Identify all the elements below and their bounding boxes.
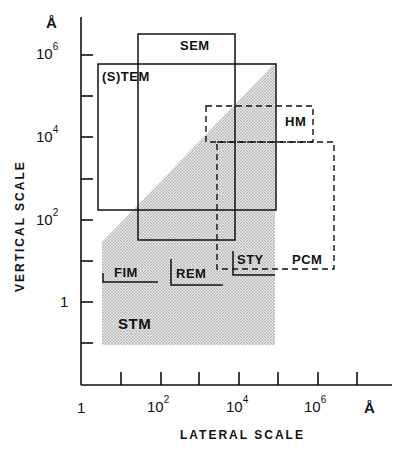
sem-label: SEM [180, 38, 210, 53]
diagram-canvas [0, 0, 405, 452]
y-axis [81, 17, 93, 385]
stm-label: STM [118, 315, 151, 332]
x-tick-1e6: 106 [304, 397, 326, 415]
x-unit: Å [364, 399, 375, 416]
y-tick-1e2-base: 10 [36, 211, 53, 228]
y-tick-1e6-base: 10 [36, 45, 53, 62]
rem-label: REM [176, 266, 206, 281]
x-tick-1e4-exp: 4 [243, 394, 249, 405]
y-tick-1e4-base: 10 [36, 128, 53, 145]
x-tick-1e4-base: 10 [226, 398, 243, 415]
x-tick-1e6-exp: 6 [321, 394, 327, 405]
y-axis-title: VERTICAL SCALE [13, 160, 27, 292]
sty-label: STY [237, 252, 264, 267]
y-unit: Å [46, 14, 57, 31]
fim-label: FIM [114, 265, 138, 280]
x-axis [81, 372, 392, 385]
y-tick-1e2: 102 [36, 210, 58, 228]
x-tick-1: 1 [77, 399, 85, 416]
hm-label: HM [285, 114, 306, 129]
x-tick-1e4: 104 [226, 397, 248, 415]
x-tick-1e2-base: 10 [147, 398, 164, 415]
x-tick-1e6-base: 10 [304, 398, 321, 415]
y-tick-1e2-exp: 2 [53, 207, 59, 218]
x-tick-1e2-exp: 2 [164, 394, 170, 405]
y-tick-1e4-exp: 4 [53, 124, 59, 135]
y-tick-1: 1 [60, 293, 68, 310]
x-axis-title: LATERAL SCALE [180, 428, 305, 442]
y-tick-1e6: 106 [36, 44, 58, 62]
y-tick-1e6-exp: 6 [53, 41, 59, 52]
stem-label: (S)TEM [102, 69, 150, 84]
y-tick-1e4: 104 [36, 127, 58, 145]
pcm-label: PCM [292, 252, 322, 267]
x-tick-1e2: 102 [147, 397, 169, 415]
